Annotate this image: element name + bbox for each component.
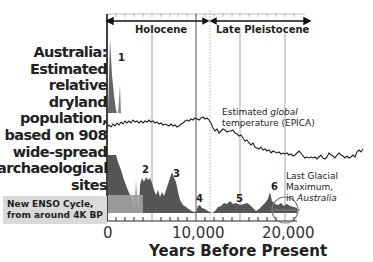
peak-label-4: 4 — [196, 193, 203, 204]
x-tick-20000: 20,000 — [262, 224, 315, 242]
top-ruler — [107, 13, 305, 17]
epica-text-2: temperature (EPICA) — [222, 118, 315, 129]
era-label-holocene: Holocene — [135, 24, 187, 35]
lgm-annotation: Last Glacial Maximum, in Australia — [286, 171, 338, 204]
enso-label: New ENSO Cycle, from around 4K BP — [3, 196, 107, 224]
x-tick-0: 0 — [103, 224, 113, 242]
lgm-text-2: Maximum, — [286, 182, 338, 193]
population-spike-1b — [118, 85, 121, 113]
population-spike-1 — [108, 40, 117, 113]
epica-annotation: Estimated global temperature (EPICA) — [222, 107, 315, 129]
epica-text: Estimated — [222, 107, 270, 117]
peak-label-3: 3 — [173, 168, 180, 179]
peak-label-1: 1 — [118, 52, 125, 63]
enso-text-2: from around 4K BP — [7, 210, 107, 221]
peak-label-5: 5 — [236, 193, 243, 204]
peak-label-2: 2 — [142, 164, 149, 175]
lgm-text-3-italic: Australia — [297, 193, 337, 203]
peak-label-6: 6 — [271, 181, 278, 192]
x-tick-10000: 10,000 — [172, 224, 225, 242]
x-axis-ticks — [107, 217, 297, 221]
x-axis-title: Years Before Present — [149, 242, 327, 260]
era-label-late-pleistocene: Late Pleistocene — [216, 24, 309, 35]
epica-text-italic: global — [270, 107, 297, 117]
lgm-text-3: in — [286, 193, 297, 203]
enso-text-1: New ENSO Cycle, — [7, 199, 107, 210]
lgm-text-1: Last Glacial — [286, 171, 338, 182]
